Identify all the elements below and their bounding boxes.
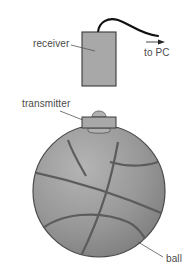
diagram-canvas [0, 0, 192, 275]
ball-leader-line [138, 242, 163, 257]
receiver-device [82, 32, 116, 86]
ball [32, 125, 166, 262]
to-pc-label: to PC [144, 48, 170, 58]
ball-label: ball [166, 254, 182, 264]
transmitter-label: transmitter [22, 99, 70, 109]
receiver-label: receiver [33, 39, 69, 49]
arrow-right-icon [146, 40, 165, 45]
